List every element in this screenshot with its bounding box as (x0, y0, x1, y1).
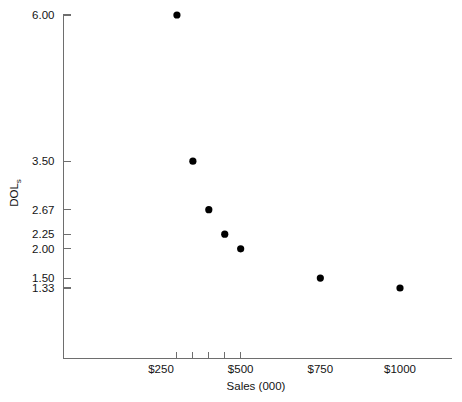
axes-group (64, 14, 453, 359)
chart-canvas: 6.003.502.672.252.001.501.33 $250$500$75… (0, 0, 462, 402)
data-point (317, 274, 324, 281)
x-tick-label: $750 (308, 363, 334, 375)
data-point (221, 231, 228, 238)
data-point (205, 206, 212, 213)
data-point (173, 11, 180, 18)
y-tick-label: 1.33 (32, 282, 54, 294)
data-point (396, 284, 403, 291)
x-tick-label: $1000 (384, 363, 416, 375)
x-tick-label: $500 (228, 363, 254, 375)
y-axis-ticks (64, 15, 71, 288)
data-point (237, 245, 244, 252)
x-axis-title: Sales (000) (227, 380, 286, 392)
y-tick-label: 2.00 (32, 243, 54, 255)
y-axis-tick-labels: 6.003.502.672.252.001.501.33 (32, 9, 54, 294)
y-tick-label: 2.25 (32, 228, 54, 240)
y-tick-label: 2.67 (32, 204, 54, 216)
data-point-series (173, 11, 403, 291)
data-point (189, 158, 196, 165)
y-tick-label: 6.00 (32, 9, 54, 21)
x-tick-label: $250 (148, 363, 174, 375)
x-axis-tick-labels: $250$500$750$1000 (148, 363, 416, 375)
x-axis-ticks (177, 352, 241, 359)
y-tick-label: 3.50 (32, 155, 54, 167)
y-axis-title-group: DOLs (8, 179, 23, 207)
scatter-chart: 6.003.502.672.252.001.501.33 $250$500$75… (0, 0, 462, 402)
y-axis-title: DOLs (8, 179, 23, 207)
